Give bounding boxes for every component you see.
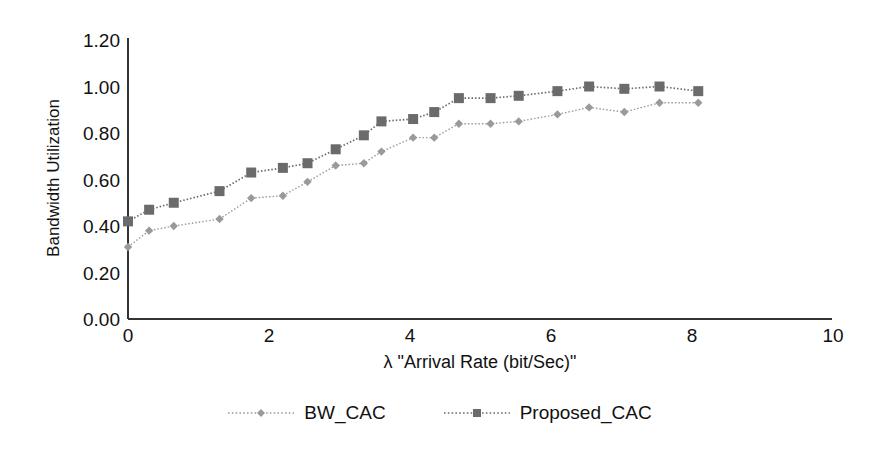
data-point-marker xyxy=(486,93,496,103)
data-point-marker xyxy=(619,84,629,94)
y-tick-label: 1.00 xyxy=(58,77,120,99)
data-point-marker xyxy=(429,107,439,117)
chart-figure: 1.20 1.00 0.80 0.60 0.40 0.20 0.00 0 2 4… xyxy=(0,0,880,457)
data-point-marker xyxy=(455,120,463,128)
legend-swatch-proposed-cac xyxy=(444,406,510,420)
data-point-marker xyxy=(303,178,311,186)
data-point-marker xyxy=(303,158,313,168)
x-tick-label: 0 xyxy=(108,325,148,347)
y-tick-label: 0.40 xyxy=(58,216,120,238)
data-point-marker xyxy=(169,198,179,208)
legend-label-proposed-cac: Proposed_CAC xyxy=(520,402,652,424)
data-point-marker xyxy=(359,130,369,140)
data-point-marker xyxy=(145,226,153,234)
x-tick-label: 4 xyxy=(390,325,430,347)
data-point-marker xyxy=(515,117,523,125)
series-proposed-cac xyxy=(123,82,703,227)
data-point-marker xyxy=(215,215,223,223)
y-tick-label: 0.60 xyxy=(58,170,120,192)
data-point-marker xyxy=(693,86,703,96)
data-point-marker xyxy=(408,114,418,124)
legend-item-bw-cac[interactable]: BW_CAC xyxy=(228,402,385,424)
data-point-marker xyxy=(584,82,594,92)
data-point-marker xyxy=(620,108,628,116)
axis-lines xyxy=(128,38,832,319)
data-point-marker xyxy=(655,99,663,107)
data-point-marker xyxy=(553,110,561,118)
y-tick-label: 1.20 xyxy=(58,30,120,52)
data-point-marker xyxy=(655,82,665,92)
data-point-marker xyxy=(144,205,154,215)
y-tick-label: 0.20 xyxy=(58,263,120,285)
plot-area xyxy=(0,0,880,457)
legend-label-bw-cac: BW_CAC xyxy=(304,402,385,424)
data-point-marker xyxy=(377,147,385,155)
data-point-marker xyxy=(215,186,225,196)
y-tick-label: 0.80 xyxy=(58,123,120,145)
data-point-marker xyxy=(331,161,339,169)
data-point-marker xyxy=(514,91,524,101)
y-axis-title: Bandwidth Utilization xyxy=(44,48,64,308)
chart-legend: BW_CAC Proposed_CAC xyxy=(0,402,880,424)
data-point-marker xyxy=(331,144,341,154)
data-point-marker xyxy=(279,192,287,200)
data-point-marker xyxy=(278,163,288,173)
x-axis-title: λ "Arrival Rate (bit/Sec)" xyxy=(128,352,832,373)
data-point-marker xyxy=(409,133,417,141)
series-line xyxy=(128,103,698,247)
data-point-marker xyxy=(376,116,386,126)
data-point-marker xyxy=(246,168,256,178)
legend-swatch-bw-cac xyxy=(228,406,294,420)
x-tick-label: 6 xyxy=(531,325,571,347)
x-tick-label: 10 xyxy=(813,325,853,347)
data-point-marker xyxy=(486,120,494,128)
data-point-marker xyxy=(430,133,438,141)
data-point-marker xyxy=(123,216,133,226)
data-point-marker xyxy=(585,103,593,111)
x-tick-label: 8 xyxy=(672,325,712,347)
data-series-group xyxy=(123,82,703,252)
data-point-marker xyxy=(170,222,178,230)
legend-item-proposed-cac[interactable]: Proposed_CAC xyxy=(444,402,652,424)
data-point-marker xyxy=(454,93,464,103)
data-point-marker xyxy=(247,194,255,202)
data-point-marker xyxy=(694,99,702,107)
series-line xyxy=(128,87,698,222)
data-point-marker xyxy=(360,159,368,167)
x-tick-label: 2 xyxy=(249,325,289,347)
data-point-marker xyxy=(552,86,562,96)
